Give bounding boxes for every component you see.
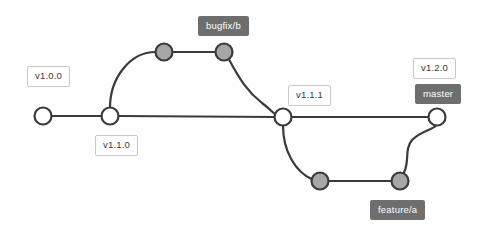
tag-v111: v1.1.1 — [288, 85, 331, 106]
edge-bugfix-merge — [229, 60, 275, 115]
edge-feature-out — [283, 126, 312, 180]
commit-bugfix-2[interactable] — [216, 44, 233, 61]
diagram-canvas: v1.0.0v1.1.0v1.1.1v1.2.0 bugfix/bmasterf… — [0, 0, 480, 233]
commit-feature-2[interactable] — [392, 173, 409, 190]
commit-bugfix-1[interactable] — [156, 44, 173, 61]
edge-branch-bugfix-out — [110, 52, 156, 108]
edge-feature-merge — [404, 126, 436, 173]
commit-merge-111[interactable] — [275, 109, 292, 126]
branch-feature-a[interactable]: feature/a — [370, 200, 425, 220]
branch-master[interactable]: master — [415, 84, 461, 104]
commit-feature-1[interactable] — [312, 173, 329, 190]
commit-master-head[interactable] — [429, 109, 446, 126]
commit-main-2[interactable] — [102, 108, 119, 125]
branch-bugfix-b[interactable]: bugfix/b — [198, 16, 249, 36]
tag-v110: v1.1.0 — [95, 135, 138, 156]
tag-v100: v1.0.0 — [27, 66, 70, 87]
tag-v120: v1.2.0 — [413, 58, 456, 79]
commit-main-1[interactable] — [35, 108, 52, 125]
edge-main-2-111 — [119, 116, 275, 117]
